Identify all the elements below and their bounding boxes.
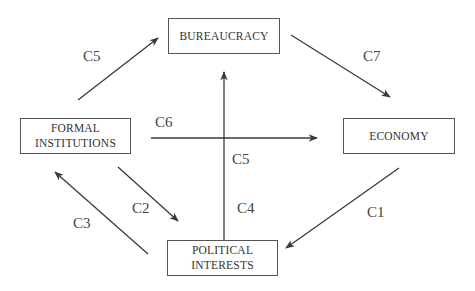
node-formal-institutions-line1: FORMAL — [51, 121, 100, 136]
node-economy-label: ECONOMY — [369, 129, 429, 144]
edge-label-c5-top: C5 — [83, 49, 101, 64]
edge-label-c3: C3 — [73, 216, 91, 231]
node-political-interests: POLITICAL INTERESTS — [167, 240, 278, 276]
node-formal-institutions: FORMAL INSTITUTIONS — [20, 118, 131, 154]
edge-label-c6: C6 — [155, 115, 173, 130]
node-economy: ECONOMY — [343, 118, 455, 154]
edge-label-c1: C1 — [367, 205, 385, 220]
node-political-interests-line2: INTERESTS — [191, 258, 254, 273]
node-bureaucracy: BUREAUCRACY — [168, 18, 280, 54]
edge-label-c4: C4 — [237, 201, 255, 216]
edge-label-c7: C7 — [363, 49, 381, 64]
node-political-interests-line1: POLITICAL — [192, 243, 253, 258]
node-bureaucracy-label: BUREAUCRACY — [179, 29, 268, 44]
node-formal-institutions-line2: INSTITUTIONS — [35, 136, 116, 151]
edge-label-c2: C2 — [132, 201, 150, 216]
arrow-c7-bureaucracy-to-economy — [291, 35, 390, 97]
edge-label-c5-center: C5 — [232, 152, 250, 167]
